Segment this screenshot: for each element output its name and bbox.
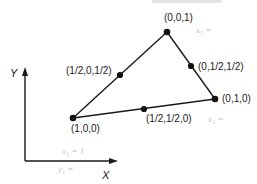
midpoint-point-half-half-0 [141, 106, 147, 112]
midpoint-label-half-half-0: (1/2,1/2,0) [146, 113, 192, 124]
clipped-header-text [152, 0, 222, 3]
vertex-label-010: (0,1,0) [222, 93, 251, 104]
midpoint-point-0-half-half [188, 63, 194, 69]
midpoint-label-half-0-half: (1/2,0,1/2) [66, 65, 112, 76]
vertex-point-100 [70, 115, 77, 122]
annotation-x2: x₂ = [207, 114, 223, 124]
vertex-label-100: (1,0,0) [71, 123, 100, 134]
annotation-x1: x₁ = 1 [61, 146, 84, 156]
midpoint-label-0-half-half: (0,1/2,1/2) [198, 61, 244, 72]
pencil-annotations: x₃ = x₂ = x₁ = 1 y₁ = [57, 25, 223, 174]
y-axis-arrow-icon [22, 67, 28, 76]
ternary-diagram: Y X (1,0,0) (0,1,0) (0,0,1) (1/2,0,1/2) … [0, 0, 257, 184]
x-axis-label: X [101, 169, 110, 181]
annotation-x3: x₃ = [195, 25, 211, 35]
vertex-label-001: (0,0,1) [164, 12, 193, 23]
annotation-y1: y₁ = [57, 164, 73, 174]
x-axis-arrow-icon [109, 158, 118, 164]
vertex-point-010 [212, 96, 219, 103]
midpoint-point-half-0-half [117, 72, 123, 78]
vertex-point-001 [164, 29, 171, 36]
y-axis-label: Y [10, 67, 18, 79]
diagram-canvas: Y X (1,0,0) (0,1,0) (0,0,1) (1/2,0,1/2) … [0, 0, 257, 184]
